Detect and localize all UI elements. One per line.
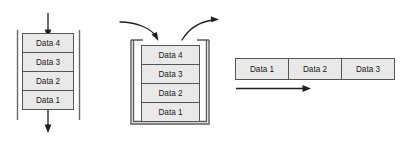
stack-diagram: Data 4 Data 3 Data 2 Data 1 xyxy=(120,16,219,124)
stack-cell-label: Data 1 xyxy=(158,108,183,117)
stack-cells: Data 4 Data 3 Data 2 Data 1 xyxy=(142,46,200,122)
diagram-canvas: Data 4 Data 3 Data 2 Data 1 xyxy=(0,0,407,145)
stack-cell-label: Data 2 xyxy=(158,89,183,98)
queue-cell-label: Data 4 xyxy=(36,39,61,48)
queue-cell-label: Data 1 xyxy=(36,96,61,105)
array-cell-label: Data 3 xyxy=(356,65,381,74)
array-cell: Data 1 xyxy=(236,59,289,80)
queue-cell-label: Data 2 xyxy=(36,77,61,86)
queue-cell: Data 4 xyxy=(23,34,74,53)
array-cell-label: Data 1 xyxy=(250,65,275,74)
queue-output-arrow xyxy=(45,110,52,133)
queue-cells: Data 4 Data 3 Data 2 Data 1 xyxy=(23,34,74,110)
array-traverse-arrow xyxy=(236,85,311,92)
stack-cell: Data 3 xyxy=(142,65,200,84)
array-cell-label: Data 2 xyxy=(303,65,328,74)
array-cell: Data 2 xyxy=(289,59,342,80)
queue-cell: Data 3 xyxy=(23,53,74,72)
queue-cell-label: Data 3 xyxy=(36,58,61,67)
queue-cell: Data 2 xyxy=(23,72,74,91)
array-cell: Data 3 xyxy=(342,59,395,80)
stack-cell: Data 1 xyxy=(142,103,200,122)
stack-push-arrow xyxy=(120,22,159,41)
array-cells: Data 1 Data 2 Data 3 xyxy=(236,59,395,80)
queue-cell: Data 1 xyxy=(23,91,74,110)
stack-cell: Data 2 xyxy=(142,84,200,103)
stack-cell: Data 4 xyxy=(142,46,200,65)
array-diagram: Data 1 Data 2 Data 3 xyxy=(236,59,395,92)
queue-diagram: Data 4 Data 3 Data 2 Data 1 xyxy=(18,13,80,133)
stack-cell-label: Data 3 xyxy=(158,70,183,79)
data-structure-diagram: Data 4 Data 3 Data 2 Data 1 xyxy=(0,0,407,145)
stack-pop-arrow xyxy=(182,16,219,40)
stack-cell-label: Data 4 xyxy=(158,51,183,60)
